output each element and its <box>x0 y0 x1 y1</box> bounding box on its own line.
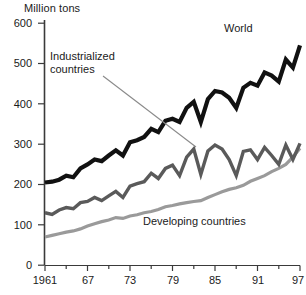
y-tick-label-600: 600 <box>6 17 32 29</box>
x-tick-label-73: 73 <box>116 274 144 286</box>
annotation-industrialized-countries: Industrialized countries <box>50 50 115 76</box>
x-tick-label-67: 67 <box>74 274 102 286</box>
y-tick-label-100: 100 <box>6 219 32 231</box>
annotation-world: World <box>224 22 253 35</box>
annotation-industrialized-line2: countries <box>50 63 115 76</box>
leader-line-industrialized <box>103 76 196 147</box>
x-tick-label-91: 91 <box>244 274 272 286</box>
x-tick-label-85: 85 <box>201 274 229 286</box>
x-tick-label-79: 79 <box>159 274 187 286</box>
chart-container: Million tons 600 500 400 300 200 100 0 1… <box>0 0 306 295</box>
x-axis-ticks <box>45 266 300 272</box>
y-tick-label-300: 300 <box>6 138 32 150</box>
y-axis-ticks <box>38 23 45 265</box>
y-tick-label-500: 500 <box>6 57 32 69</box>
x-tick-label-1961: 1961 <box>25 274 65 286</box>
y-tick-label-200: 200 <box>6 178 32 190</box>
y-tick-label-0: 0 <box>6 259 32 271</box>
annotation-developing-countries: Developing countries <box>143 215 246 228</box>
y-axis-title: Million tons <box>24 2 80 14</box>
chart-plot-area <box>0 0 306 295</box>
x-tick-label-97: 97 <box>284 274 306 286</box>
annotation-industrialized-line1: Industrialized <box>50 50 115 63</box>
series-line-industrialized-countries <box>45 143 300 214</box>
y-tick-label-400: 400 <box>6 98 32 110</box>
